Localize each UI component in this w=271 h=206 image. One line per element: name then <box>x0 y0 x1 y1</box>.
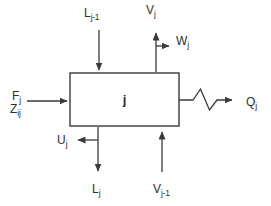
stage-label: j <box>70 73 179 126</box>
label-liquid-in-top-main: L <box>84 6 91 20</box>
heat-zigzag-icon <box>179 89 232 110</box>
label-vapor-out-top-sub: j <box>154 9 156 19</box>
label-feed-composition-sub: ij <box>17 108 20 118</box>
label-liquid-in-top: Lj-1 <box>84 7 99 24</box>
label-vapor-in-bottom-sub: j-1 <box>161 188 170 198</box>
label-vapor-sidestream: Wj <box>176 35 189 52</box>
label-vapor-in-bottom: Vj-1 <box>153 183 170 200</box>
label-liquid-sidestream-sub: j <box>66 139 68 149</box>
label-liquid-out-bottom-main: L <box>92 182 99 196</box>
label-liquid-out-bottom: Lj <box>92 183 100 200</box>
label-liquid-in-top-sub: j-1 <box>91 12 100 22</box>
label-liquid-sidestream: Uj <box>57 134 67 151</box>
label-liquid-out-bottom-sub: j <box>99 188 101 198</box>
label-feed-composition: Zij <box>10 103 21 120</box>
label-vapor-in-bottom-main: V <box>153 182 161 196</box>
label-vapor-sidestream-sub: j <box>187 40 189 50</box>
label-liquid-sidestream-main: U <box>57 133 66 147</box>
label-vapor-out-top-main: V <box>146 3 154 17</box>
label-heat-duty-main: Q <box>246 95 255 109</box>
label-heat-duty: Qj <box>246 96 257 113</box>
label-heat-duty-sub: j <box>255 101 257 111</box>
label-vapor-out-top: Vj <box>146 4 156 21</box>
label-vapor-sidestream-main: W <box>176 34 187 48</box>
equilibrium-stage-diagram: j Lj-1 Vj Wj Fj Zij Qj Uj Lj Vj-1 <box>0 0 271 206</box>
